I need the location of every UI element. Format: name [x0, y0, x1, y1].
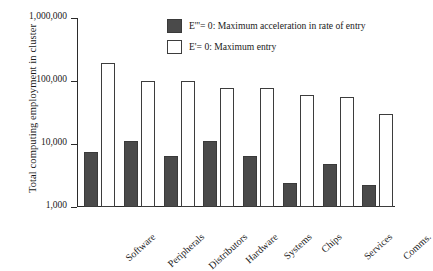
y-tick: 1,000,000 [71, 18, 77, 19]
y-tick-label: 100,000 [36, 74, 67, 84]
legend-swatch [167, 40, 182, 54]
bar [101, 63, 115, 207]
legend-item: E'= 0: Maximum entry [167, 40, 366, 56]
bar [300, 95, 314, 207]
y-tick-label: 1,000 [46, 200, 67, 210]
bar [379, 114, 393, 207]
bar [260, 88, 274, 207]
y-tick: 1,000 [71, 207, 77, 208]
y-axis-line [77, 18, 78, 207]
bar [181, 81, 195, 207]
bar [220, 88, 234, 207]
legend-swatch [167, 19, 182, 33]
bar [283, 183, 297, 207]
bar [362, 185, 376, 207]
y-tick-label: 10,000 [41, 137, 67, 147]
x-axis-label: Systems [282, 231, 314, 261]
bar [141, 81, 155, 207]
y-tick-label: 1,000,000 [29, 11, 67, 21]
x-axis-label: Peripherals [165, 231, 206, 269]
y-axis-title: Total computing employment in cluster [27, 14, 38, 204]
legend-label: E'''= 0: Maximum acceleration in rate of… [189, 19, 366, 33]
legend-label: E'= 0: Maximum entry [189, 40, 276, 54]
bar [84, 152, 98, 207]
y-tick: 10,000 [71, 144, 77, 145]
y-tick: 100,000 [71, 81, 77, 82]
bar [243, 156, 257, 207]
bar [340, 97, 354, 207]
x-axis-label: Services [361, 231, 394, 262]
x-axis-label: Comms. [401, 231, 433, 262]
bar [164, 156, 178, 207]
x-axis-label: Distributors [206, 231, 249, 271]
legend-item: E'''= 0: Maximum acceleration in rate of… [167, 19, 366, 35]
x-axis-label: Chips [319, 231, 344, 255]
x-axis-label: Hardware [243, 231, 280, 266]
x-axis-label: Software [123, 231, 157, 263]
bar [323, 164, 337, 207]
bar [124, 141, 138, 207]
chart-legend: E'''= 0: Maximum acceleration in rate of… [167, 19, 366, 61]
bar [203, 141, 217, 207]
